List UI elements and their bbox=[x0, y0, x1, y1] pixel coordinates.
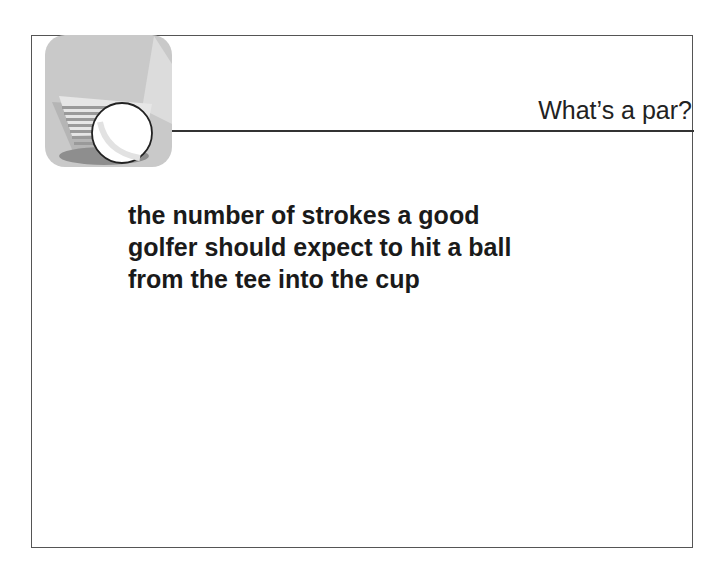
slide-body: the number of strokes a good golfer shou… bbox=[128, 199, 598, 295]
header-rule bbox=[172, 130, 694, 132]
body-line-3: from the tee into the cup bbox=[128, 263, 598, 295]
golf-club-and-ball-icon bbox=[44, 34, 174, 169]
body-line-2: golfer should expect to hit a ball bbox=[128, 231, 598, 263]
slide-title: What’s a par? bbox=[538, 96, 692, 125]
body-line-1: the number of strokes a good bbox=[128, 199, 598, 231]
